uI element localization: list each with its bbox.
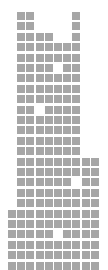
grid-cell	[17, 158, 25, 166]
grid-cell	[17, 137, 25, 145]
grid-cell	[54, 106, 62, 114]
grid-cell	[45, 262, 53, 270]
grid-cell	[26, 95, 34, 103]
grid-cell	[82, 251, 90, 259]
grid-cell	[82, 178, 90, 186]
grid-cell	[91, 210, 99, 218]
grid-cell	[26, 178, 34, 186]
grid-cell	[63, 230, 71, 238]
grid-cell	[72, 22, 80, 30]
grid-cell	[63, 262, 71, 270]
grid-cell	[54, 158, 62, 166]
grid-cell	[45, 126, 53, 134]
grid-cell	[45, 220, 53, 228]
grid-cell	[45, 106, 53, 114]
grid-cell	[45, 54, 53, 62]
grid-cell	[54, 74, 62, 82]
grid-cell	[54, 95, 62, 103]
grid-cell	[26, 199, 34, 207]
grid-cell	[72, 147, 80, 155]
grid-cell	[45, 147, 53, 155]
grid-cell	[36, 95, 44, 103]
grid-cell	[17, 230, 25, 238]
grid-cell	[72, 85, 80, 93]
grid-cell	[82, 158, 90, 166]
grid-cell	[36, 168, 44, 176]
grid-cell	[26, 241, 34, 249]
grid-cell	[54, 178, 62, 186]
grid-cell	[54, 189, 62, 197]
grid-cell	[17, 22, 25, 30]
grid-cell	[17, 74, 25, 82]
grid-cell	[72, 199, 80, 207]
grid-cell	[63, 95, 71, 103]
grid-cell	[91, 158, 99, 166]
grid-cell	[17, 54, 25, 62]
grid-cell	[63, 220, 71, 228]
grid-cell	[72, 241, 80, 249]
grid-cell	[72, 168, 80, 176]
grid-cell	[26, 22, 34, 30]
grid-cell	[63, 43, 71, 51]
grid-cell	[82, 220, 90, 228]
grid-cell	[8, 251, 16, 259]
grid-cell	[17, 189, 25, 197]
grid-cell	[72, 95, 80, 103]
grid-cell	[63, 241, 71, 249]
grid-cell	[26, 230, 34, 238]
grid-cell	[91, 189, 99, 197]
grid-cell	[36, 189, 44, 197]
grid-cell	[36, 74, 44, 82]
grid-cell	[91, 199, 99, 207]
grid-cell	[72, 158, 80, 166]
grid-cell	[63, 199, 71, 207]
grid-cell	[72, 230, 80, 238]
grid-cell	[72, 54, 80, 62]
grid-cell	[91, 262, 99, 270]
grid-cell	[26, 220, 34, 228]
grid-cell	[17, 33, 25, 41]
grid-cell	[17, 95, 25, 103]
grid-cell	[82, 230, 90, 238]
grid-cell	[26, 210, 34, 218]
grid-cell	[36, 54, 44, 62]
grid-cell	[82, 168, 90, 176]
grid-cell	[63, 251, 71, 259]
grid-cell	[26, 126, 34, 134]
grid-cell	[26, 262, 34, 270]
grid-cell	[17, 251, 25, 259]
grid-cell	[45, 43, 53, 51]
grid-cell	[26, 54, 34, 62]
grid-cell	[17, 12, 25, 20]
grid-cell	[36, 230, 44, 238]
grid-cell	[45, 168, 53, 176]
grid-cell	[26, 137, 34, 145]
grid-cell	[63, 178, 71, 186]
grid-cell	[26, 168, 34, 176]
grid-cell	[45, 137, 53, 145]
block-grid	[0, 0, 108, 270]
grid-cell	[8, 220, 16, 228]
grid-cell	[8, 230, 16, 238]
grid-cell	[54, 137, 62, 145]
grid-cell	[72, 106, 80, 114]
grid-cell	[72, 251, 80, 259]
grid-cell	[72, 33, 80, 41]
grid-cell	[54, 126, 62, 134]
grid-cell	[17, 116, 25, 124]
grid-cell	[63, 126, 71, 134]
grid-cell	[26, 106, 34, 114]
grid-cell	[17, 220, 25, 228]
grid-cell	[36, 137, 44, 145]
grid-cell	[63, 85, 71, 93]
grid-cell	[17, 241, 25, 249]
grid-cell	[17, 168, 25, 176]
grid-cell	[72, 64, 80, 72]
grid-cell	[72, 12, 80, 20]
grid-cell	[36, 262, 44, 270]
grid-cell	[54, 168, 62, 176]
grid-cell	[45, 230, 53, 238]
grid-cell	[82, 189, 90, 197]
grid-cell	[45, 64, 53, 72]
grid-cell	[36, 178, 44, 186]
